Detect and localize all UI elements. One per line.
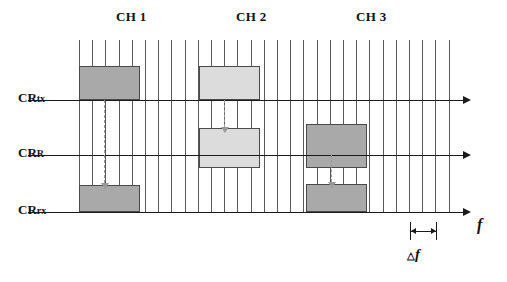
channel-block-ch1-tx	[79, 66, 140, 100]
row-label-crrx-main: CR	[18, 202, 37, 217]
gridline-26	[422, 40, 423, 212]
gridline-6	[158, 40, 159, 212]
gridline-15	[277, 40, 278, 212]
delta-f-variable: f	[415, 246, 420, 262]
delta-symbol: △	[407, 250, 415, 261]
gridline-5	[145, 40, 146, 212]
row-label-crr-main: CR	[18, 145, 37, 160]
frequency-axis-label: f	[477, 216, 482, 234]
gridline-17	[303, 40, 304, 212]
channel-block-ch3-r	[306, 124, 367, 168]
figure-canvas: CH 1 CH 2 CH 3 CRtx CRR CRrx f △f	[0, 0, 507, 282]
gridline-22	[369, 40, 370, 212]
gridline-16	[290, 40, 291, 212]
row-label-crtx-sub: tx	[37, 93, 45, 104]
gridline-23	[383, 40, 384, 212]
delta-f-arrowhead-left-icon	[411, 228, 416, 234]
row-label-crrx: CRrx	[18, 202, 46, 218]
arrow-ch3-arrowhead-icon	[328, 182, 336, 188]
gridline-24	[396, 40, 397, 212]
delta-f-arrowhead-right-icon	[431, 228, 436, 234]
axis-line-crtx	[28, 100, 468, 101]
axis-arrowhead-crr-icon	[463, 151, 471, 159]
delta-f-label: △f	[407, 246, 420, 263]
gridline-25	[409, 40, 410, 212]
gridline-28	[449, 40, 450, 212]
channel-block-ch1-rx	[79, 185, 140, 212]
delta-f-tick-right	[436, 222, 437, 240]
axis-line-crrx	[28, 212, 468, 213]
gridline-7	[171, 40, 172, 212]
row-label-crr: CRR	[18, 145, 44, 161]
arrow-ch2-line	[224, 100, 226, 127]
gridline-27	[435, 40, 436, 212]
gridline-14	[264, 40, 265, 212]
row-label-crtx: CRtx	[18, 90, 45, 106]
channel-block-ch3-rx	[306, 184, 367, 212]
channel-block-ch2-tx	[199, 66, 260, 100]
channel-label-ch1: CH 1	[116, 9, 146, 25]
arrow-ch3-line	[331, 155, 333, 182]
axis-arrowhead-crtx-icon	[463, 96, 471, 104]
channel-label-ch2: CH 2	[236, 9, 266, 25]
arrow-ch1-line	[104, 100, 106, 183]
channel-block-ch2-r	[199, 128, 260, 168]
arrow-ch2-arrowhead-icon	[221, 127, 229, 133]
arrow-ch1-arrowhead-icon	[101, 183, 109, 189]
row-label-crrx-sub: rx	[37, 205, 46, 216]
axis-arrowhead-crrx-icon	[463, 208, 471, 216]
channel-label-ch3: CH 3	[356, 9, 386, 25]
axis-line-crr	[28, 155, 468, 156]
row-label-crtx-main: CR	[18, 90, 37, 105]
row-label-crr-sub: R	[37, 148, 44, 159]
gridline-8	[185, 40, 186, 212]
